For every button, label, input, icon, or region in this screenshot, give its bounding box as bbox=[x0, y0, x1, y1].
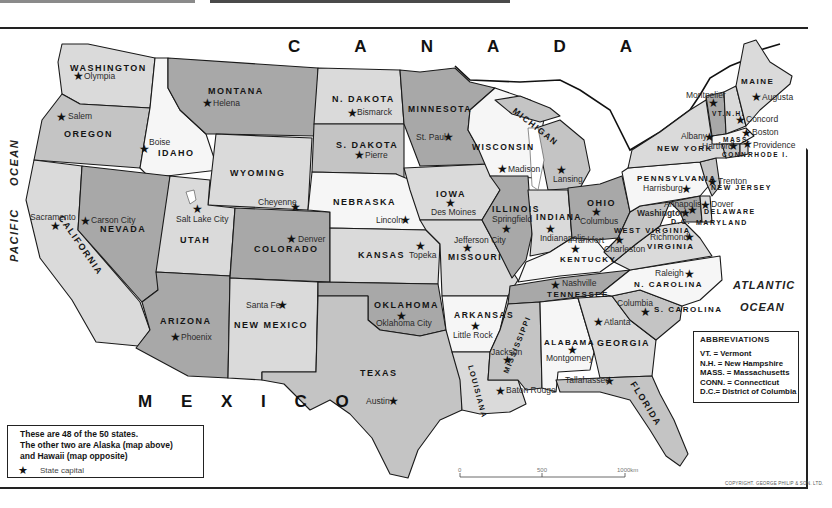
abbreviation-vt: VT. = Vermont bbox=[700, 349, 792, 359]
svg-text:Frankfort: Frankfort bbox=[570, 235, 605, 245]
svg-text:Jackson: Jackson bbox=[491, 347, 522, 357]
label-wisconsin: WISCONSIN bbox=[472, 142, 535, 152]
scale-tick-0: 0 bbox=[458, 467, 462, 473]
star-icon: ★ bbox=[684, 267, 695, 281]
legend-line-2: The other two are Alaska (map above) bbox=[20, 440, 191, 451]
abbreviation-dc: D.C.= District of Columbia bbox=[700, 387, 792, 397]
capital-santa-fe[interactable]: ★Santa Fe bbox=[246, 298, 288, 312]
svg-text:Columbus: Columbus bbox=[580, 216, 618, 226]
ocean-label-atlantic-ocean: OCEAN bbox=[740, 301, 785, 313]
label-kentucky: KENTUCKY bbox=[560, 255, 616, 264]
label-georgia: GEORGIA bbox=[597, 338, 650, 348]
label-missouri: MISSOURI bbox=[448, 252, 502, 262]
star-icon: ★ bbox=[202, 96, 213, 110]
ocean-label-atlantic: ATLANTIC bbox=[732, 279, 795, 291]
capital-washington[interactable]: ★Washington bbox=[637, 206, 691, 220]
label-rhode-island: RHODE I. bbox=[748, 151, 789, 158]
capital-denver[interactable]: ★Denver bbox=[286, 232, 326, 246]
scale-tick-500: 500 bbox=[537, 467, 548, 473]
svg-text:Bismarck: Bismarck bbox=[357, 107, 393, 117]
abbreviation-conn: CONN. = Connecticut bbox=[700, 378, 792, 388]
star-icon: ★ bbox=[56, 110, 67, 124]
svg-text:Austin: Austin bbox=[366, 396, 390, 406]
svg-text:Boise: Boise bbox=[149, 137, 171, 147]
svg-text:Concord: Concord bbox=[746, 114, 778, 124]
svg-text:Dover: Dover bbox=[711, 199, 734, 209]
label-kansas: KANSAS bbox=[358, 250, 405, 260]
capital-olympia[interactable]: ★Olympia bbox=[73, 69, 115, 83]
star-icon: ★ bbox=[735, 113, 746, 127]
label-illinois: ILLINOIS bbox=[492, 204, 540, 214]
star-icon: ★ bbox=[707, 175, 718, 189]
capital-providence[interactable]: ★Providence bbox=[742, 137, 796, 151]
ocean-label-pacific-ocean: OCEAN bbox=[8, 139, 20, 186]
copyright-notice: COPYRIGHT. GEORGE PHILIP & SON. LTD. bbox=[725, 481, 823, 486]
svg-text:Jefferson City: Jefferson City bbox=[454, 235, 507, 245]
label-oregon: OREGON bbox=[64, 129, 113, 139]
capital-hartford[interactable]: ★Hartford bbox=[702, 139, 739, 153]
star-icon: ★ bbox=[501, 222, 512, 236]
star-icon: ★ bbox=[388, 394, 399, 408]
svg-text:St. Paul: St. Paul bbox=[416, 132, 446, 142]
svg-text:Des Moines: Des Moines bbox=[431, 207, 476, 217]
label-indiana: INDIANA bbox=[536, 212, 582, 222]
capital-madison[interactable]: ★Madison bbox=[497, 162, 540, 176]
svg-text:Nashville: Nashville bbox=[562, 278, 597, 288]
label-nevada: NEVADA bbox=[100, 224, 146, 234]
legend-key-label: State capital bbox=[40, 466, 84, 475]
svg-text:Montpelier: Montpelier bbox=[686, 90, 726, 100]
svg-text:Salt Lake City: Salt Lake City bbox=[176, 214, 229, 224]
capital-richmond[interactable]: ★Richmond bbox=[650, 230, 695, 244]
label-maryland: MARYLAND bbox=[696, 219, 748, 226]
svg-text:Harrisburg: Harrisburg bbox=[643, 183, 683, 193]
svg-text:Sacramento: Sacramento bbox=[30, 212, 76, 222]
svg-text:Carson City: Carson City bbox=[91, 215, 136, 225]
label-pennsylvania: PENNSYLVANIA bbox=[637, 174, 717, 183]
star-icon: ★ bbox=[73, 69, 84, 83]
legend-line-3: and Hawaii (map opposite) bbox=[20, 451, 191, 462]
star-icon: ★ bbox=[80, 214, 91, 228]
star-icon: ★ bbox=[742, 137, 753, 151]
svg-text:Topeka: Topeka bbox=[409, 250, 437, 260]
star-icon: ★ bbox=[354, 148, 365, 162]
star-icon: ★ bbox=[593, 315, 604, 329]
svg-text:Little Rock: Little Rock bbox=[453, 330, 493, 340]
label-arkansas: ARKANSAS bbox=[454, 310, 514, 320]
label-montana: MONTANA bbox=[208, 86, 264, 96]
capital-concord[interactable]: ★Concord bbox=[735, 113, 778, 127]
svg-text:Madison: Madison bbox=[508, 164, 540, 174]
svg-text:Columbia: Columbia bbox=[617, 298, 653, 308]
legend-line-1: These are 48 of the 50 states. bbox=[20, 429, 191, 440]
capital-austin[interactable]: ★Austin bbox=[366, 394, 399, 408]
capital-st-paul[interactable]: ★St. Paul bbox=[416, 130, 454, 144]
svg-text:Santa Fe: Santa Fe bbox=[246, 300, 281, 310]
svg-text:Charleston: Charleston bbox=[604, 244, 645, 254]
label-utah: UTAH bbox=[180, 235, 210, 245]
abbreviation-nh: N.H. = New Hampshire bbox=[700, 359, 792, 369]
capital-phoenix[interactable]: ★Phoenix bbox=[170, 330, 212, 344]
svg-text:Lincoln: Lincoln bbox=[376, 215, 403, 225]
label-vermont: VT. bbox=[712, 110, 726, 117]
svg-text:Denver: Denver bbox=[298, 234, 326, 244]
capital-pierre[interactable]: ★Pierre bbox=[354, 148, 388, 162]
label-south-carolina: S. CAROLINA bbox=[654, 305, 723, 314]
svg-text:Salem: Salem bbox=[68, 111, 92, 121]
capital-atlanta[interactable]: ★Atlanta bbox=[593, 315, 631, 329]
svg-text:Raleigh: Raleigh bbox=[655, 268, 684, 278]
svg-text:Providence: Providence bbox=[753, 140, 796, 150]
svg-text:Boston: Boston bbox=[752, 127, 779, 137]
star-icon: ★ bbox=[495, 384, 506, 398]
ocean-label-pacific: PACIFIC bbox=[8, 208, 20, 262]
abbreviations-title: ABBREVIATIONS bbox=[700, 335, 792, 344]
svg-text:Phoenix: Phoenix bbox=[181, 332, 212, 342]
label-nebraska: NEBRASKA bbox=[333, 197, 396, 207]
svg-text:Washington: Washington bbox=[637, 208, 685, 218]
capital-helena[interactable]: ★Helena bbox=[202, 96, 240, 110]
star-icon: ★ bbox=[497, 162, 508, 176]
label-arizona: ARIZONA bbox=[160, 316, 212, 326]
capital-augusta[interactable]: ★Augusta bbox=[751, 90, 793, 104]
svg-text:Albany: Albany bbox=[681, 131, 708, 141]
svg-text:Springfield: Springfield bbox=[492, 214, 532, 224]
capital-baton-rouge[interactable]: ★Baton Rouge bbox=[495, 384, 556, 398]
capital-lincoln[interactable]: ★Lincoln bbox=[376, 213, 411, 227]
